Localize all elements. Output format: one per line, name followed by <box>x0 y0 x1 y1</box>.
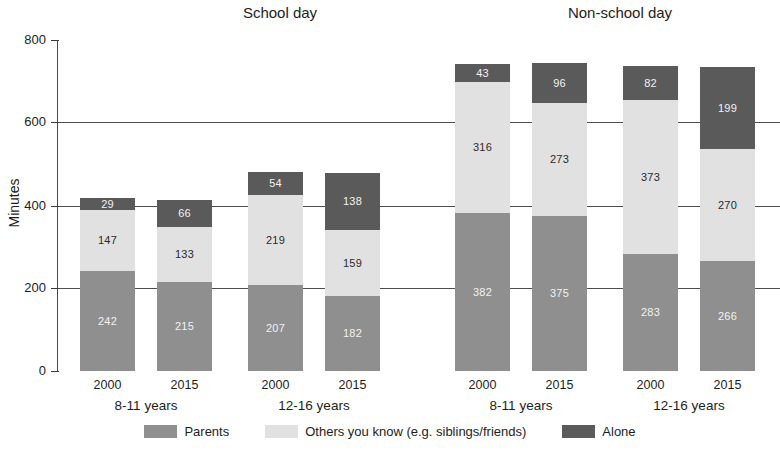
chart-legend: Parents Others you know (e.g. siblings/f… <box>0 424 780 439</box>
y-tick-label-800: 800 <box>6 32 46 47</box>
segment-others: 373 <box>623 100 678 254</box>
legend-label-parents: Parents <box>184 424 229 439</box>
segment-others: 219 <box>248 195 303 285</box>
x-tick-nonschool-2000-8-11: 2000 <box>455 378 510 392</box>
legend-item-others: Others you know (e.g. siblings/friends) <box>265 424 526 439</box>
y-tick-label-200: 200 <box>6 280 46 295</box>
segment-others: 147 <box>80 210 135 271</box>
legend-swatch-others-icon <box>265 425 298 438</box>
segment-alone: 54 <box>248 172 303 195</box>
segment-parents: 242 <box>80 271 135 371</box>
segment-others: 133 <box>157 227 212 282</box>
x-group-label-school-8-11: 8-11 years <box>76 398 216 413</box>
bar-nonschool-2000-12-16: 82 373 283 <box>623 66 678 371</box>
y-tick-mark-200 <box>51 288 59 289</box>
segment-parents: 283 <box>623 254 678 371</box>
x-tick-nonschool-2015-8-11: 2015 <box>532 378 587 392</box>
bar-school-2015-12-16: 138 159 182 <box>325 173 380 371</box>
x-group-label-nonschool-8-11: 8-11 years <box>451 398 591 413</box>
segment-parents: 207 <box>248 285 303 371</box>
segment-alone: 29 <box>80 198 135 210</box>
segment-alone: 82 <box>623 66 678 100</box>
legend-item-alone: Alone <box>562 424 635 439</box>
bar-nonschool-2000-8-11: 43 316 382 <box>455 64 510 371</box>
segment-parents: 215 <box>157 282 212 371</box>
segment-alone: 96 <box>532 63 587 103</box>
segment-parents: 382 <box>455 213 510 371</box>
segment-others: 316 <box>455 82 510 213</box>
y-tick-mark-400 <box>51 206 59 207</box>
x-tick-school-2015-12-16: 2015 <box>325 378 380 392</box>
panel-title-school-day: School day <box>160 4 400 21</box>
y-tick-mark-800 <box>51 40 59 41</box>
legend-item-parents: Parents <box>144 424 229 439</box>
segment-alone: 66 <box>157 200 212 227</box>
x-tick-school-2000-8-11: 2000 <box>80 378 135 392</box>
bar-school-2000-12-16: 54 219 207 <box>248 172 303 371</box>
y-tick-label-600: 600 <box>6 114 46 129</box>
x-tick-nonschool-2000-12-16: 2000 <box>623 378 678 392</box>
segment-parents: 266 <box>700 261 755 371</box>
segment-others: 270 <box>700 149 755 261</box>
y-tick-label-0: 0 <box>6 363 46 378</box>
x-group-label-nonschool-12-16: 12-16 years <box>619 398 759 413</box>
legend-swatch-parents-icon <box>144 425 177 438</box>
segment-others: 273 <box>532 103 587 216</box>
x-tick-school-2000-12-16: 2000 <box>248 378 303 392</box>
stacked-bar-chart-figure: School day Non-school day Minutes 800 60… <box>0 0 780 451</box>
x-tick-nonschool-2015-12-16: 2015 <box>700 378 755 392</box>
y-tick-mark-0 <box>51 371 59 372</box>
bar-nonschool-2015-12-16: 199 270 266 <box>700 67 755 371</box>
segment-others: 159 <box>325 230 380 296</box>
panel-title-non-school-day: Non-school day <box>500 4 740 21</box>
bar-school-2015-8-11: 66 133 215 <box>157 200 212 371</box>
segment-alone: 138 <box>325 173 380 230</box>
segment-parents: 375 <box>532 216 587 371</box>
x-tick-school-2015-8-11: 2015 <box>157 378 212 392</box>
segment-parents: 182 <box>325 296 380 371</box>
legend-swatch-alone-icon <box>562 425 595 438</box>
legend-label-others: Others you know (e.g. siblings/friends) <box>305 424 526 439</box>
bar-school-2000-8-11: 29 147 242 <box>80 198 135 371</box>
segment-alone: 43 <box>455 64 510 82</box>
bar-nonschool-2015-8-11: 96 273 375 <box>532 63 587 371</box>
segment-alone: 199 <box>700 67 755 149</box>
y-tick-label-400: 400 <box>6 198 46 213</box>
x-group-label-school-12-16: 12-16 years <box>244 398 384 413</box>
legend-label-alone: Alone <box>602 424 635 439</box>
y-tick-mark-600 <box>51 122 59 123</box>
